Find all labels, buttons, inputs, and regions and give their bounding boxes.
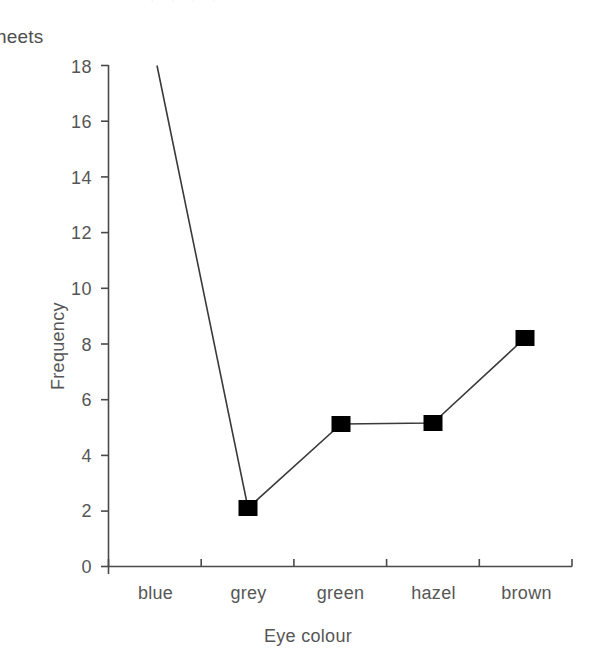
plot-area bbox=[0, 0, 600, 667]
data-point-grey[interactable] bbox=[239, 500, 258, 516]
y-axis-ticks bbox=[101, 66, 109, 567]
data-point-hazel[interactable] bbox=[424, 415, 443, 431]
data-point-green[interactable] bbox=[332, 416, 351, 432]
chart-container: · · · · heets Frequency Eye colour 18 16… bbox=[0, 0, 600, 667]
data-line-frequency bbox=[157, 66, 525, 509]
data-point-brown[interactable] bbox=[516, 330, 535, 346]
